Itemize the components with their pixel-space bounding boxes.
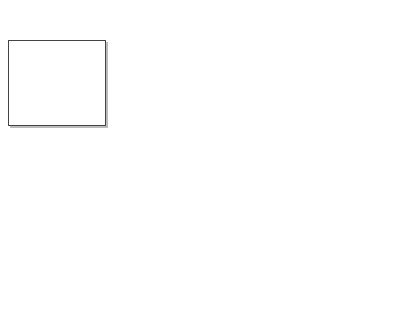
- step-chart: [0, 0, 411, 316]
